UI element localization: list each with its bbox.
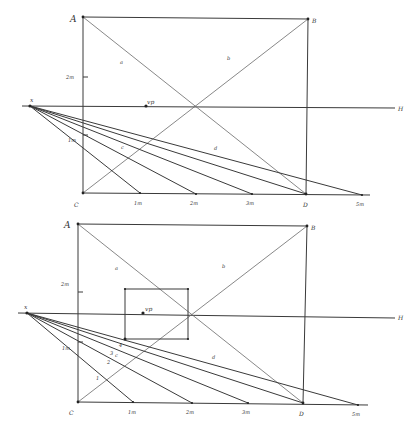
point-d — [302, 402, 305, 405]
label-x: x — [24, 303, 28, 310]
label-base-2m: 2m — [185, 409, 194, 415]
diagonal-c-b — [83, 19, 308, 193]
ray-4m — [30, 106, 306, 194]
label-a: A — [63, 220, 71, 230]
inner-rect-corner — [187, 288, 189, 290]
ray-5m — [30, 106, 362, 195]
ray-2m — [30, 106, 196, 194]
point-x — [25, 311, 28, 314]
edge-bd — [306, 19, 308, 194]
label-1m-side: 1m — [68, 137, 76, 143]
perspective-construction-figure: A B C D vp x H a b c d 2m 1m 1m 2m 3m 5m — [0, 0, 419, 435]
base-point-1m — [139, 192, 141, 194]
base-point-2m — [191, 402, 193, 404]
point-a — [82, 16, 85, 19]
base-point-3m — [247, 402, 249, 404]
label-base-1m: 1m — [128, 409, 136, 415]
inner-rectangle — [125, 289, 188, 339]
base-point-5m — [361, 194, 363, 196]
label-b: B — [310, 224, 316, 231]
point-x — [28, 104, 31, 107]
label-line-c: c — [121, 144, 124, 150]
label-base-3m: 3m — [242, 409, 250, 415]
label-line-d: d — [212, 354, 215, 360]
label-base-2m: 2m — [189, 200, 198, 206]
label-base-3m: 3m — [246, 200, 254, 206]
label-line-d: d — [214, 145, 217, 151]
baseline — [78, 402, 368, 405]
horizon-line — [22, 106, 395, 108]
label-d: D — [302, 201, 308, 208]
point-b — [307, 18, 310, 21]
ray-2m — [27, 313, 192, 403]
point-c — [82, 192, 85, 195]
ray-3m — [30, 106, 252, 194]
base-point-3m — [251, 193, 253, 195]
label-2m: 2m — [65, 74, 74, 80]
inner-rect-corner — [187, 338, 189, 340]
ray-4m — [27, 313, 303, 403]
label-diag-4: 4 — [118, 342, 122, 348]
label-2m: 2m — [60, 281, 69, 287]
inner-rect-corner — [124, 288, 126, 290]
bottom-diagram: A B C D vp x H a b c d 2m 1m 1 2 3 4 1m … — [18, 220, 404, 417]
label-base-1m: 1m — [134, 200, 142, 206]
label-b: B — [311, 17, 317, 24]
label-x: x — [30, 96, 34, 103]
label-d: D — [298, 410, 304, 417]
label-diag-2: 2 — [106, 359, 110, 365]
base-point-5m — [357, 404, 359, 406]
label-line-b: b — [227, 55, 230, 61]
label-h: H — [397, 105, 404, 112]
label-1m-side: 1m — [62, 345, 70, 351]
edge-ab — [78, 224, 307, 226]
label-c: C — [69, 409, 74, 416]
inner-rect-corner — [124, 338, 127, 341]
label-diag-3: 3 — [110, 350, 113, 356]
point-c — [77, 401, 80, 404]
label-line-b: b — [222, 263, 225, 269]
base-point-1m — [132, 401, 134, 403]
label-line-a: a — [120, 59, 123, 65]
label-line-a: a — [115, 265, 118, 271]
horizon-line — [18, 313, 395, 318]
point-a — [77, 223, 80, 226]
label-a: A — [69, 14, 77, 24]
ray-5m — [27, 313, 358, 405]
label-vp: vp — [145, 305, 152, 313]
label-base-5m: 5m — [356, 201, 364, 207]
label-h: H — [397, 314, 404, 321]
label-c: C — [74, 201, 79, 208]
baseline — [83, 193, 370, 195]
edge-bd — [303, 226, 307, 403]
point-d — [305, 193, 308, 196]
edge-ab — [83, 17, 308, 19]
base-point-2m — [195, 193, 197, 195]
label-line-c: c — [115, 352, 118, 358]
label-diag-1: 1 — [96, 375, 99, 381]
label-base-5m: 5m — [352, 411, 360, 417]
point-b — [306, 225, 309, 228]
top-diagram: A B C D vp x H a b c d 2m 1m 1m 2m 3m 5m — [22, 14, 404, 208]
label-vp: vp — [147, 98, 154, 106]
